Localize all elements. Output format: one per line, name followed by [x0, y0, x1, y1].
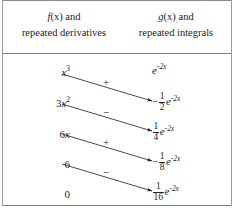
integral-1-denominator: 2 — [159, 102, 166, 113]
integral-1-numerator: 1 — [159, 92, 166, 102]
derivative-2-base: x — [65, 128, 70, 140]
integral-4-numerator: 1 — [153, 182, 165, 192]
integral-3-denominator: 8 — [159, 162, 166, 173]
integral-cell-1: −12e-2x — [152, 92, 230, 112]
column-header-derivatives-line1: f(x) and — [8, 9, 120, 25]
column-header-integrals: g(x) and repeated integrals — [122, 9, 230, 41]
function-g-conjunction: and — [176, 11, 194, 22]
integral-4-fraction: 116 — [153, 182, 165, 202]
column-header-integrals-line1: g(x) and — [122, 9, 230, 25]
derivative-0-exponent: 3 — [66, 64, 70, 73]
derivative-1-exponent: 2 — [66, 95, 70, 104]
integral-2-exp-power: -2x — [165, 124, 175, 133]
integral-1-exp-power: -2x — [171, 94, 181, 103]
integral-2-numerator: 1 — [153, 122, 160, 132]
derivative-cell-2: 6x — [12, 128, 70, 140]
arrow-sign-0: + — [99, 76, 113, 88]
column-header-integrals-line2: repeated integrals — [122, 25, 230, 41]
integral-4-exp-power: -2x — [169, 184, 179, 193]
arrow-sign-2: + — [99, 136, 113, 148]
table-left-border — [2, 0, 3, 206]
integral-cell-2: 14e-2x — [152, 122, 230, 142]
arrow-sign-1: − — [99, 106, 113, 118]
integral-cell-4: 116e-2x — [152, 182, 230, 202]
integral-cell-0: e-2x — [152, 64, 230, 76]
derivative-3-coefficient: 6 — [65, 158, 71, 170]
integral-1-sign: − — [152, 95, 158, 107]
derivative-cell-1: 3x2 — [12, 97, 70, 109]
derivative-cell-4: 0 — [12, 188, 70, 200]
derivative-cell-3: 6 — [12, 158, 70, 170]
function-f-conjunction: and — [63, 11, 81, 22]
integral-2-denominator: 4 — [153, 132, 160, 143]
integral-3-fraction: 18 — [159, 152, 166, 172]
integral-4-denominator: 16 — [153, 192, 165, 203]
integral-0-exp-power: -2x — [157, 62, 167, 71]
integral-3-exp-power: -2x — [171, 154, 181, 163]
table-header-rule — [2, 53, 232, 54]
tabular-integration-figure: f(x) and repeated derivatives g(x) and r… — [0, 0, 240, 217]
column-header-derivatives-line2: repeated derivatives — [8, 25, 120, 41]
integral-2-fraction: 14 — [153, 122, 160, 142]
derivative-4-coefficient: 0 — [65, 188, 71, 200]
function-f-argument: (x) — [50, 11, 62, 22]
table-bottom-rule — [2, 205, 232, 206]
integral-1-fraction: 12 — [159, 92, 166, 112]
integral-3-numerator: 1 — [159, 152, 166, 162]
function-g-argument: (x) — [164, 11, 176, 22]
derivative-cell-0: x3 — [12, 66, 70, 78]
integral-cell-3: −18e-2x — [152, 152, 230, 172]
arrow-sign-3: − — [99, 166, 113, 178]
column-header-derivatives: f(x) and repeated derivatives — [8, 9, 120, 41]
table-right-border — [231, 0, 232, 206]
integral-3-sign: − — [152, 155, 158, 167]
table-top-rule — [2, 0, 232, 1]
